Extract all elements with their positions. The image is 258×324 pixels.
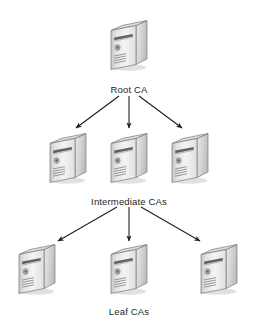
root-ca-server — [110, 21, 147, 71]
intermediate-ca-server-2 — [110, 134, 147, 184]
tier-label-root: Root CA — [111, 84, 148, 95]
server-nodes-layer — [18, 21, 237, 295]
leaf-ca-server-3 — [200, 245, 237, 295]
intermediate-ca-server-3 — [171, 134, 208, 184]
arrow-intermediate-to-leaf-3 — [141, 207, 200, 241]
server-tower-icon — [110, 245, 147, 295]
server-tower-icon — [49, 134, 86, 184]
arrow-root-to-intermediate-3 — [139, 96, 182, 128]
server-tower-icon — [110, 21, 147, 71]
leaf-ca-server-1 — [18, 245, 55, 295]
server-tower-icon — [200, 245, 237, 295]
server-tower-icon — [18, 245, 55, 295]
ca-hierarchy-diagram: Root CAIntermediate CAsLeaf CAs — [0, 0, 258, 324]
server-tower-icon — [171, 134, 208, 184]
intermediate-ca-server-1 — [49, 134, 86, 184]
tier-label-intermediate: Intermediate CAs — [91, 196, 167, 207]
leaf-ca-server-2 — [110, 245, 147, 295]
arrow-root-to-intermediate-1 — [76, 96, 119, 128]
arrow-intermediate-to-leaf-1 — [58, 207, 117, 241]
tier-label-leaf: Leaf CAs — [109, 306, 149, 317]
server-tower-icon — [110, 134, 147, 184]
diagram-canvas — [0, 0, 258, 324]
